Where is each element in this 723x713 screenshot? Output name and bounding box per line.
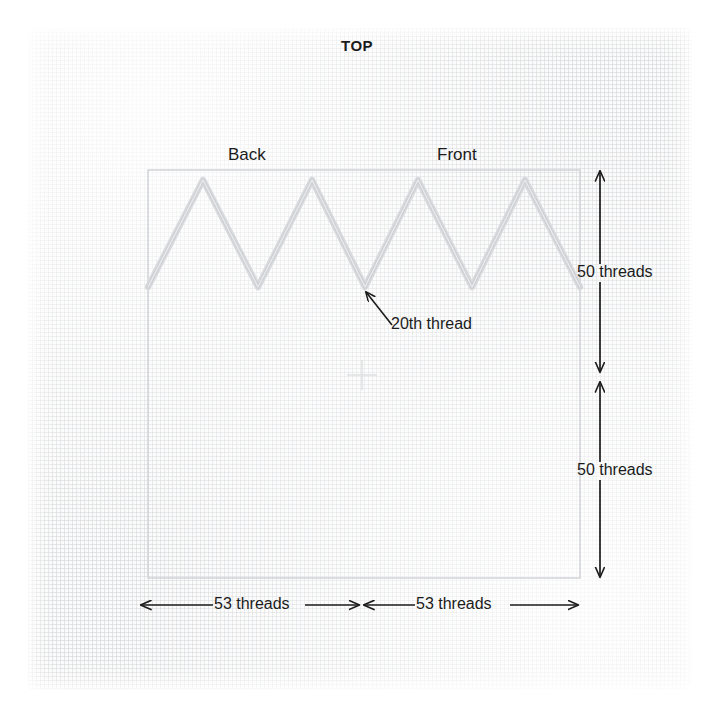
- center-cross-mark: [347, 360, 377, 390]
- thread-callout-leader-line: [366, 292, 392, 325]
- label-back: Back: [228, 146, 266, 163]
- dimension-label-horizontal-right: 53 threads: [416, 596, 492, 612]
- zigzag-stitch-line: [148, 180, 580, 287]
- dimension-label-vertical-lower: 50 threads: [577, 462, 653, 478]
- page-title: TOP: [341, 38, 373, 53]
- label-front: Front: [437, 146, 477, 163]
- dimension-label-vertical-upper: 50 threads: [577, 264, 653, 280]
- diagram-vector-layer: [0, 0, 723, 713]
- fabric-outline-rect: [148, 170, 580, 578]
- thread-callout-label: 20th thread: [391, 316, 472, 332]
- dimension-label-horizontal-left: 53 threads: [214, 596, 290, 612]
- diagram-page: TOP Back Front 20th thread 50 threads 50…: [0, 0, 723, 713]
